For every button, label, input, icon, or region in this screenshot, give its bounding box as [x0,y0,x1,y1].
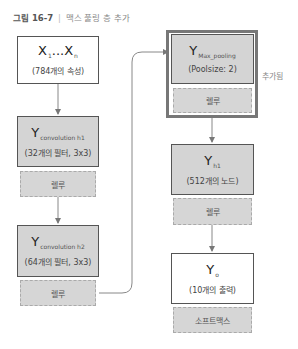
output-layer-box: Yo (10개의 출력) [171,253,254,304]
input-symbol: X1...Xn [38,44,78,63]
hidden-description: (512개의 노드) [186,175,238,186]
added-note: 추가됨 [262,70,283,81]
hidden-activation: 렐루 [173,198,252,225]
conv1-activation: 렐루 [20,171,96,197]
maxpool-layer-box: YMax_pooling (Poolsize: 2) [171,34,254,84]
conv2-description: (64개의 필터, 3x3) [25,256,92,267]
input-description: (784개의 속성) [32,65,84,76]
conv2-symbol: Yconvolution h2 [31,235,84,254]
maxpool-activation: 렐루 [173,88,252,113]
output-symbol: Yo [206,263,219,282]
conv2-layer-box: Yconvolution h2 (64개의 필터, 3x3) [17,225,99,277]
conv2-activation: 렐루 [20,280,96,306]
output-activation: 소프트맥스 [173,307,252,333]
maxpool-description: (Poolsize: 2) [188,65,237,74]
output-description: (10개의 출력) [189,284,236,295]
conv1-description: (32개의 필터, 3x3) [25,147,92,158]
conv1-layer-box: Yconvolution h1 (32개의 필터, 3x3) [17,116,99,167]
input-layer-box: X1...Xn (784개의 속성) [17,36,99,84]
hidden-symbol: Yh1 [204,154,221,173]
conv1-symbol: Yconvolution h1 [31,126,84,145]
hidden-layer-box: Yh1 (512개의 노드) [171,144,254,195]
maxpool-symbol: YMax_pooling [189,44,235,63]
